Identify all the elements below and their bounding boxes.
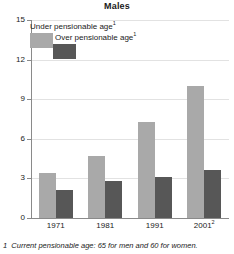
x-tick-label-text: 1971 (47, 221, 65, 230)
x-tick-label-text: 1981 (96, 221, 114, 230)
bar-2001-over (204, 170, 221, 218)
gridline (31, 20, 229, 21)
y-tick-label: 9 (3, 95, 25, 103)
bar-1991-under (138, 122, 155, 218)
legend-label-over-pensionable-age-superscript: 1 (133, 31, 136, 37)
bar-1981-over (105, 181, 122, 218)
footnote-marker: 1 (3, 241, 7, 250)
chart-title: Males (0, 1, 234, 11)
y-tick-label: 12 (3, 56, 25, 64)
bar-1971-over (56, 190, 73, 218)
x-tick-label-text: 1991 (146, 221, 164, 230)
chart-container: Males 03691215 19711981199120012 Under p… (0, 0, 234, 254)
bar-2001-under (187, 86, 204, 218)
legend-swatch-over-pensionable-age (53, 44, 76, 59)
chart-legend: Under pensionable age1 Over pensionable … (30, 22, 160, 54)
x-axis-line (31, 218, 229, 219)
x-tick-label: 20012 (182, 221, 226, 230)
legend-label-over-pensionable-age-text: Over pensionable age (55, 33, 133, 42)
legend-label-under-pensionable-age-text: Under pensionable age (30, 22, 113, 31)
gridline (31, 60, 229, 61)
bar-1991-over (155, 177, 172, 218)
footnote-text: Current pensionable age: 65 for men and … (11, 241, 197, 250)
legend-label-under-pensionable-age-superscript: 1 (113, 20, 116, 26)
legend-swatch-under-pensionable-age (30, 33, 53, 48)
y-tick-label: 6 (3, 135, 25, 143)
y-tick-label: 15 (3, 16, 25, 24)
x-tick-label-text: 2001 (194, 221, 212, 230)
x-tick-label-superscript: 2 (212, 219, 215, 225)
bar-1971-under (39, 173, 56, 218)
legend-label-over-pensionable-age: Over pensionable age1 (55, 33, 136, 42)
legend-label-under-pensionable-age: Under pensionable age1 (30, 22, 116, 31)
x-tick-label: 1991 (133, 221, 177, 230)
chart-footnote: 1 Current pensionable age: 65 for men an… (3, 241, 231, 251)
x-tick-label: 1971 (34, 221, 78, 230)
x-tick-label: 1981 (83, 221, 127, 230)
y-tick-label: 0 (3, 214, 25, 222)
y-tick-label: 3 (3, 174, 25, 182)
bar-1981-under (88, 156, 105, 218)
